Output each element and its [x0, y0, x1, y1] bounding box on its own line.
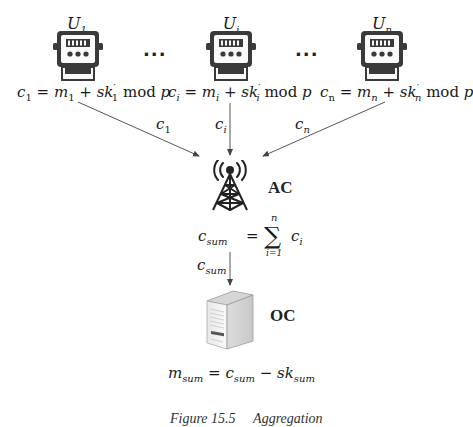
equation-un: cn = mn + sk′n mod p — [320, 83, 473, 101]
operator-label: OC — [270, 306, 296, 326]
edge-un-to-ac — [263, 102, 385, 156]
edge-label-csum: csum — [197, 256, 226, 274]
smart-meter-icon — [357, 30, 407, 82]
figure-title: Aggregation — [253, 411, 322, 426]
edge-label-c1: c1 — [156, 115, 171, 133]
edge-u1-to-ac — [78, 102, 199, 156]
ellipsis-right: ··· — [295, 44, 319, 65]
smart-meter-icon — [206, 30, 256, 82]
decryption-formula: msum = csum − sksum — [168, 364, 315, 382]
equation-ui: ci = mi + sk′i mod p — [168, 83, 312, 101]
aggregator-label: AC — [268, 178, 293, 198]
edge-label-cn: cn — [295, 115, 310, 133]
aggregation-formula: csum = ∑ n i=1 ci — [198, 218, 318, 254]
figure-number: Figure 15.5 — [170, 411, 236, 426]
cell-tower-icon — [207, 160, 253, 212]
ellipsis-left: ··· — [143, 44, 167, 65]
equation-u1: c1 = m1 + sk′1 mod p — [17, 83, 170, 101]
edge-label-ci: ci — [215, 115, 227, 133]
server-icon — [203, 289, 257, 351]
smart-meter-icon — [53, 30, 103, 82]
figure-caption: Figure 15.5 Aggregation — [163, 395, 323, 427]
